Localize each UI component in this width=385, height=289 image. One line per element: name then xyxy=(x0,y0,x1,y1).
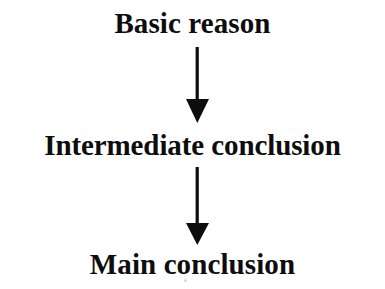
arrow-shaft xyxy=(196,167,199,225)
argument-flow-diagram: Basic reason Intermediate conclusion Mai… xyxy=(0,0,385,289)
node-main-conclusion: Main conclusion xyxy=(0,250,385,279)
arrow-head-icon xyxy=(186,223,209,245)
node-basic-reason: Basic reason xyxy=(0,9,385,38)
node-intermediate-conclusion: Intermediate conclusion xyxy=(0,131,385,160)
arrow-shaft xyxy=(196,47,199,100)
scan-speck-artifact xyxy=(184,279,187,282)
arrow-head-icon xyxy=(186,99,209,123)
